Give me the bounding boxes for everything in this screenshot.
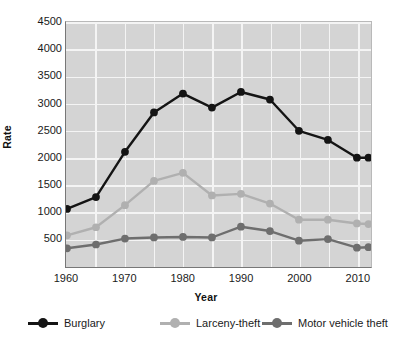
line-chart: Rate 45004000350030002500200015001000500… xyxy=(0,0,412,343)
legend-dot-icon xyxy=(272,318,282,328)
x-axis-tick-labels: 196019701980199020002010 xyxy=(0,272,412,290)
data-point-marker xyxy=(208,192,216,200)
y-tick-label: 2000 xyxy=(14,152,62,163)
data-point-marker xyxy=(295,127,303,135)
data-point-marker xyxy=(365,243,371,251)
x-tick-label: 2000 xyxy=(269,272,329,285)
data-point-marker xyxy=(66,244,71,252)
data-point-marker xyxy=(266,227,274,235)
y-tick-label: 1500 xyxy=(14,179,62,190)
legend-label: Motor vehicle theft xyxy=(298,317,388,329)
data-point-marker xyxy=(266,96,274,104)
data-point-marker xyxy=(324,136,332,144)
data-point-marker xyxy=(353,244,361,252)
plot-area xyxy=(65,21,372,268)
y-tick-label: 4000 xyxy=(14,43,62,54)
x-tick-label: 1990 xyxy=(211,272,271,285)
data-point-marker xyxy=(295,237,303,245)
data-point-marker xyxy=(324,216,332,224)
data-point-marker xyxy=(208,234,216,242)
data-point-marker xyxy=(121,148,129,156)
data-point-marker xyxy=(179,233,187,241)
data-point-marker xyxy=(208,104,216,112)
legend-item[interactable]: Motor vehicle theft xyxy=(262,314,388,332)
y-axis-tick-labels: 45004000350030002500200015001000500 xyxy=(14,0,62,275)
legend-label: Larceny-theft xyxy=(196,317,260,329)
y-tick-label: 4500 xyxy=(14,16,62,27)
legend-dot-icon xyxy=(170,318,180,328)
data-point-marker xyxy=(179,169,187,177)
chart-legend: BurglaryLarceny-theftMotor vehicle theft xyxy=(0,314,412,336)
data-point-marker xyxy=(237,223,245,231)
data-point-marker xyxy=(92,193,100,201)
x-axis-title: Year xyxy=(0,291,412,303)
y-tick-label: 500 xyxy=(14,233,62,244)
data-point-marker xyxy=(353,154,361,162)
data-point-marker xyxy=(150,177,158,185)
data-point-marker xyxy=(66,205,71,213)
series-lines xyxy=(66,22,371,267)
data-point-marker xyxy=(92,223,100,231)
series-line xyxy=(67,173,369,236)
y-tick-label: 2500 xyxy=(14,125,62,136)
legend-swatch-icon xyxy=(28,317,58,329)
x-tick-label: 1980 xyxy=(153,272,213,285)
x-tick-label: 1970 xyxy=(94,272,154,285)
y-tick-label: 3000 xyxy=(14,98,62,109)
data-point-marker xyxy=(121,201,129,209)
data-point-marker xyxy=(150,109,158,117)
data-point-marker xyxy=(295,216,303,224)
data-point-marker xyxy=(92,241,100,249)
legend-dot-icon xyxy=(38,318,48,328)
legend-swatch-icon xyxy=(160,317,190,329)
data-point-marker xyxy=(324,235,332,243)
y-tick-label: 3500 xyxy=(14,70,62,81)
data-point-marker xyxy=(179,90,187,98)
series-line xyxy=(67,227,369,249)
legend-item[interactable]: Burglary xyxy=(28,314,105,332)
data-point-marker xyxy=(237,190,245,198)
data-point-marker xyxy=(353,220,361,228)
data-point-marker xyxy=(266,200,274,208)
data-point-marker xyxy=(66,231,71,239)
data-point-marker xyxy=(365,154,371,162)
legend-label: Burglary xyxy=(64,317,105,329)
data-point-marker xyxy=(150,234,158,242)
x-tick-label: 1960 xyxy=(36,272,96,285)
data-point-marker xyxy=(365,220,371,228)
data-point-marker xyxy=(121,235,129,243)
y-tick-label: 1000 xyxy=(14,206,62,217)
legend-item[interactable]: Larceny-theft xyxy=(160,314,260,332)
y-axis-title: Rate xyxy=(1,117,13,157)
data-point-marker xyxy=(237,88,245,96)
legend-swatch-icon xyxy=(262,317,292,329)
series-line xyxy=(67,92,369,209)
x-tick-label: 2010 xyxy=(328,272,388,285)
